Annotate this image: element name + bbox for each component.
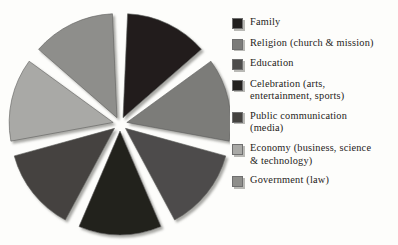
legend-label-religion: Religion (church & mission) — [250, 37, 374, 49]
legend-label-economy: Economy (business, science & technology) — [250, 142, 371, 167]
pie-slices-group — [9, 14, 230, 235]
legend-swatch-government — [232, 176, 243, 187]
legend-item-family[interactable]: Family — [232, 16, 398, 29]
legend-label-family: Family — [250, 16, 280, 28]
legend-label-education: Education — [250, 57, 294, 69]
legend-swatch-education — [232, 59, 243, 70]
legend-item-public-communication[interactable]: Public communication (media) — [232, 110, 398, 135]
legend-swatch-public-communication — [232, 112, 243, 123]
pie-svg — [8, 2, 230, 244]
legend-swatch-religion — [232, 39, 243, 50]
pie-chart-area — [8, 2, 230, 244]
legend-item-celebration[interactable]: Celebration (arts, entertainment, sports… — [232, 78, 398, 103]
pie-chart-figure: Family Religion (church & mission) Educa… — [0, 0, 398, 245]
legend-item-economy[interactable]: Economy (business, science & technology) — [232, 142, 398, 167]
legend-item-government[interactable]: Government (law) — [232, 174, 398, 187]
legend-item-education[interactable]: Education — [232, 57, 398, 70]
legend-label-government: Government (law) — [250, 174, 329, 186]
legend-label-public-communication: Public communication (media) — [250, 110, 347, 135]
legend-swatch-family — [232, 18, 243, 29]
legend-item-religion[interactable]: Religion (church & mission) — [232, 37, 398, 50]
legend-swatch-economy — [232, 144, 243, 155]
legend: Family Religion (church & mission) Educa… — [232, 16, 398, 195]
legend-label-celebration: Celebration (arts, entertainment, sports… — [250, 78, 344, 103]
legend-swatch-celebration — [232, 80, 243, 91]
